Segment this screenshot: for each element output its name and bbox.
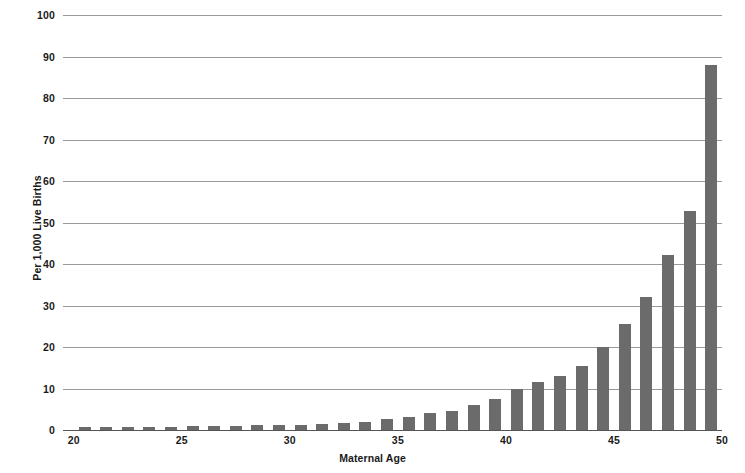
bar bbox=[489, 399, 501, 430]
bar bbox=[79, 427, 91, 430]
bar bbox=[640, 297, 652, 430]
bar bbox=[468, 405, 480, 430]
bar bbox=[662, 255, 674, 430]
gridline bbox=[63, 140, 722, 141]
bar bbox=[143, 427, 155, 430]
bar bbox=[316, 424, 328, 430]
x-tick-label: 35 bbox=[392, 434, 404, 446]
bar bbox=[381, 419, 393, 430]
gridline bbox=[63, 15, 722, 16]
bar bbox=[705, 65, 717, 430]
bar bbox=[208, 426, 220, 430]
bar bbox=[295, 425, 307, 430]
y-tick-label: 20 bbox=[9, 341, 55, 353]
bar bbox=[100, 427, 112, 430]
bar bbox=[338, 423, 350, 430]
gridline bbox=[63, 57, 722, 58]
bar bbox=[576, 366, 588, 430]
plot-area bbox=[63, 15, 722, 430]
y-tick-label: 100 bbox=[9, 9, 55, 21]
y-tick-label: 50 bbox=[9, 217, 55, 229]
y-axis-tick-labels: 0102030405060708090100 bbox=[0, 15, 55, 430]
gridline bbox=[63, 264, 722, 265]
bar bbox=[230, 426, 242, 430]
bar bbox=[122, 427, 134, 430]
y-tick-label: 30 bbox=[9, 300, 55, 312]
bar-chart: Per 1,000 Live Births 010203040506070809… bbox=[0, 0, 745, 473]
bar bbox=[165, 427, 177, 430]
y-tick-label: 40 bbox=[9, 258, 55, 270]
gridline bbox=[63, 223, 722, 224]
bar bbox=[554, 376, 566, 430]
bar bbox=[251, 425, 263, 430]
y-tick-label: 90 bbox=[9, 51, 55, 63]
bar bbox=[619, 324, 631, 430]
y-tick-label: 10 bbox=[9, 383, 55, 395]
bar bbox=[684, 211, 696, 430]
gridline bbox=[63, 181, 722, 182]
bar bbox=[359, 422, 371, 430]
y-tick-label: 60 bbox=[9, 175, 55, 187]
x-tick-label: 20 bbox=[68, 434, 80, 446]
gridline bbox=[63, 306, 722, 307]
bar bbox=[403, 417, 415, 430]
gridline bbox=[63, 98, 722, 99]
bar bbox=[597, 347, 609, 430]
y-tick-label: 80 bbox=[9, 92, 55, 104]
x-tick-label: 40 bbox=[500, 434, 512, 446]
bar bbox=[273, 425, 285, 430]
bar bbox=[532, 382, 544, 430]
bar bbox=[446, 411, 458, 430]
bar bbox=[511, 389, 523, 430]
y-tick-label: 0 bbox=[9, 424, 55, 436]
x-tick-label: 30 bbox=[284, 434, 296, 446]
x-axis-tick-labels: 20253035404550 bbox=[63, 431, 722, 451]
bar bbox=[424, 413, 436, 430]
x-tick-label: 25 bbox=[176, 434, 188, 446]
x-tick-label: 45 bbox=[608, 434, 620, 446]
x-tick-label: 50 bbox=[716, 434, 728, 446]
y-tick-label: 70 bbox=[9, 134, 55, 146]
bar bbox=[187, 426, 199, 430]
x-axis-title: Maternal Age bbox=[0, 452, 745, 464]
